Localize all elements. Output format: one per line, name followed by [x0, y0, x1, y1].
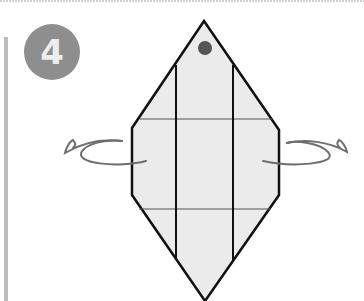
origami-diagram [0, 0, 364, 301]
marker-dot-icon [198, 41, 212, 55]
paper-shape [132, 21, 279, 301]
